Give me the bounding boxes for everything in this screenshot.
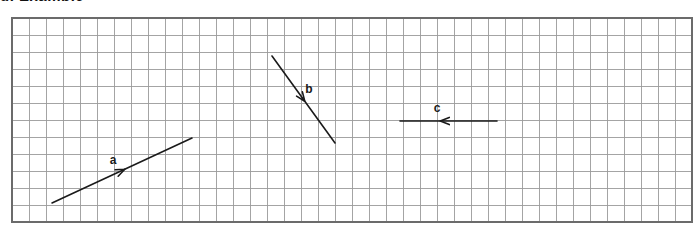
vector-b-label: b: [305, 82, 312, 96]
figure-canvas: g. Example abc: [0, 0, 700, 236]
vector-c-label: c: [434, 101, 441, 115]
vector-a-label: a: [110, 153, 117, 167]
vector-arrows: [52, 56, 497, 203]
vector-a-shaft: [52, 138, 192, 203]
grid-lines: [12, 18, 692, 222]
vector-grid-figure: abc: [0, 0, 700, 236]
